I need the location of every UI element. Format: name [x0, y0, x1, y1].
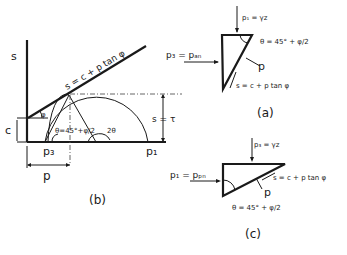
- p-label: p: [43, 169, 51, 183]
- failure-envelope: [28, 46, 146, 118]
- envelope-label: s = c + p tan φ: [63, 48, 127, 92]
- theta-label: θ = 45° + φ/2: [260, 38, 309, 46]
- panel-a-active-wedge: p₁ = γz p₃ = pₐₙ θ = 45° + φ/2 p s = c +…: [166, 6, 309, 120]
- p-arrow: [256, 178, 262, 189]
- phi-label: φ: [41, 111, 46, 119]
- p1-label: p₁: [146, 145, 157, 158]
- panel-c-passive-wedge: p₃ = γz p₁ = pₚₙ s = c + p tan φ p θ = 4…: [170, 138, 326, 241]
- theta-label: θ = 45° + φ/2: [232, 204, 281, 212]
- mohr-coulomb-figure: s s = c + p tan φ c φ θ=45°+φ/2 2θ s = τ…: [0, 0, 347, 255]
- panel-b-mohr-diagram: s s = c + p tan φ c φ θ=45°+φ/2 2θ s = τ…: [5, 40, 182, 207]
- panel-a-caption: (a): [257, 106, 274, 120]
- panel-b-caption: (b): [89, 193, 106, 207]
- top-load-label: p₁ = γz: [242, 14, 268, 22]
- side-pressure-label: p₃ = pₐₙ: [166, 50, 202, 60]
- theta-label: θ=45°+φ/2: [55, 127, 95, 135]
- shear-label: s = c + p tan φ: [236, 82, 289, 90]
- mohr-circle: [45, 97, 148, 142]
- shear-label: s = τ: [152, 114, 175, 124]
- panel-c-caption: (c): [245, 227, 261, 241]
- p-label: p: [258, 60, 265, 73]
- two-theta-label: 2θ: [107, 127, 116, 135]
- p-label: p: [264, 186, 271, 199]
- shear-label: s = c + p tan φ: [273, 174, 326, 182]
- s-axis-label: s: [11, 50, 17, 63]
- theta-arc: [223, 180, 235, 190]
- top-load-label: p₃ = γz: [254, 141, 280, 149]
- theta-arc: [52, 134, 58, 142]
- side-pressure-label: p₁ = pₚₙ: [170, 170, 206, 180]
- p3-label: p₃: [43, 145, 54, 158]
- c-label: c: [5, 124, 11, 137]
- theta-arc: [240, 35, 248, 43]
